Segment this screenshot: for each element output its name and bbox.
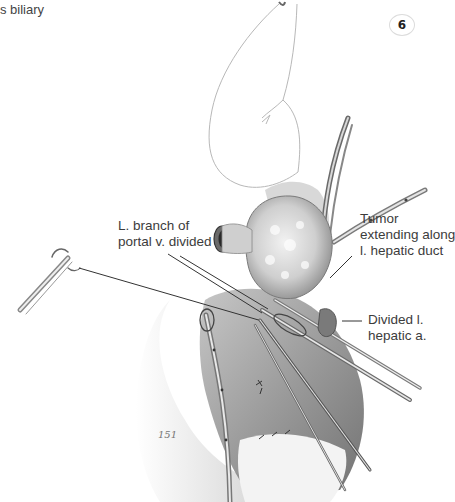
- leader-tumor: [330, 256, 352, 278]
- label-line: l. hepatic duct: [360, 243, 455, 259]
- retracted-liver: [209, 2, 300, 187]
- label-line: Divided l.: [368, 312, 427, 328]
- label-tumor: Tumor extending along l. hepatic duct: [360, 211, 455, 259]
- label-line: portal v. divided: [118, 234, 212, 250]
- hepatic-artery-stump: [318, 309, 336, 337]
- label-line: L. branch of: [118, 218, 212, 234]
- label-hepatic-artery: Divided l. hepatic a.: [368, 312, 427, 344]
- label-line: Tumor: [360, 211, 455, 227]
- artist-signature: 151: [158, 429, 177, 440]
- label-portal-branch: L. branch of portal v. divided: [118, 218, 212, 250]
- forceps: [20, 249, 80, 314]
- duodenum: [238, 434, 346, 502]
- label-line: hepatic a.: [368, 328, 427, 344]
- label-line: extending along: [360, 227, 455, 243]
